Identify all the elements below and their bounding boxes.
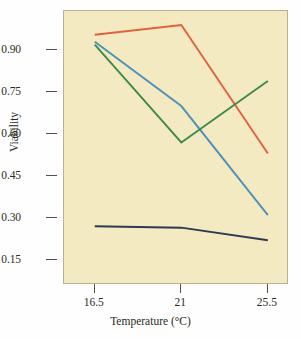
y-tick-label: 0.30 bbox=[1, 211, 21, 223]
x-tick-label: 25.5 bbox=[257, 296, 277, 308]
chart-figure: Viability 0.900.750.600.450.300.15 Tempe… bbox=[0, 0, 301, 339]
x-tick-label: 16.5 bbox=[84, 296, 104, 308]
series-line-blue-series bbox=[95, 42, 268, 215]
series-layer bbox=[64, 11, 288, 284]
y-tick bbox=[46, 133, 57, 134]
y-tick-label: 0.45 bbox=[1, 169, 21, 181]
y-tick bbox=[46, 91, 57, 92]
x-tick-label: 21 bbox=[175, 296, 187, 308]
y-tick-label: 0.75 bbox=[1, 85, 21, 97]
y-tick-label: 0.60 bbox=[1, 127, 21, 139]
y-tick-label: 0.15 bbox=[1, 253, 21, 265]
series-line-green-series bbox=[95, 45, 268, 143]
y-tick bbox=[46, 175, 57, 176]
series-line-navy-series bbox=[95, 226, 268, 240]
x-tick bbox=[267, 284, 268, 293]
x-tick bbox=[180, 284, 181, 293]
y-tick-label: 0.90 bbox=[1, 43, 21, 55]
y-tick bbox=[46, 49, 57, 50]
x-tick bbox=[94, 284, 95, 293]
y-axis: Viability 0.900.750.600.450.300.15 bbox=[0, 0, 63, 294]
y-tick bbox=[46, 217, 57, 218]
plot-area bbox=[63, 10, 288, 284]
x-axis-title: Temperature (°C) bbox=[0, 315, 301, 327]
series-line-orange-series bbox=[95, 25, 268, 154]
y-tick bbox=[46, 259, 57, 260]
